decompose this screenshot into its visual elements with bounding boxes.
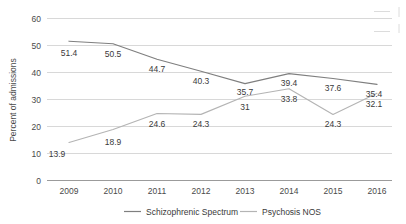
data-label-schizophrenic-2016: 35.4 [366, 89, 383, 99]
x-tick-2015: 2015 [324, 186, 343, 196]
x-tick-2012: 2012 [192, 186, 211, 196]
y-axis-title: Percent of admissions [8, 58, 18, 142]
data-label-psychosis-2013: 31 [240, 102, 250, 112]
line-chart: 60 50 40 30 20 10 0 Percent of admission… [0, 0, 406, 224]
chart-legend: Schizophrenic Spectrum Psychosis NOS [124, 207, 321, 217]
data-label-psychosis-2011: 24.6 [149, 119, 166, 129]
data-label-psychosis-2015: 24.3 [325, 119, 342, 129]
data-label-psychosis-2016: 32.1 [366, 99, 383, 109]
y-tick-30: 30 [32, 95, 42, 105]
y-tick-40: 40 [32, 68, 42, 78]
data-label-psychosis-2009: 13.9 [49, 149, 66, 159]
data-label-schizophrenic-2015: 37.6 [325, 83, 342, 93]
data-label-schizophrenic-2013: 35.7 [237, 87, 254, 97]
x-axis-ticks: 2009 2010 2011 2012 2013 2014 2015 2016 [60, 186, 387, 196]
y-tick-10: 10 [32, 149, 42, 159]
chart-canvas: 60 50 40 30 20 10 0 Percent of admission… [0, 0, 406, 224]
x-tick-2016: 2016 [368, 186, 387, 196]
y-axis-ticks: 60 50 40 30 20 10 0 [32, 14, 42, 186]
series-line-schizophrenic-spectrum [69, 41, 377, 84]
data-label-psychosis-2014: 33.8 [281, 94, 298, 104]
y-tick-60: 60 [32, 14, 42, 24]
x-tick-2013: 2013 [236, 186, 255, 196]
data-labels-schizophrenic-spectrum: 51.4 50.5 44.7 40.3 35.7 39.4 37.6 35.4 [61, 48, 383, 99]
data-label-schizophrenic-2012: 40.3 [193, 76, 210, 86]
legend-label-psychosis-nos[interactable]: Psychosis NOS [262, 207, 321, 217]
x-tick-2010: 2010 [104, 186, 123, 196]
x-tick-2009: 2009 [60, 186, 79, 196]
y-tick-50: 50 [32, 41, 42, 51]
data-label-psychosis-2010: 18.9 [105, 137, 122, 147]
data-label-schizophrenic-2010: 50.5 [105, 49, 122, 59]
series-line-psychosis-nos [69, 89, 377, 143]
x-tick-2011: 2011 [148, 186, 167, 196]
x-tick-2014: 2014 [280, 186, 299, 196]
data-label-schizophrenic-2014: 39.4 [281, 78, 298, 88]
data-label-schizophrenic-2009: 51.4 [61, 48, 78, 58]
legend-label-schizophrenic-spectrum[interactable]: Schizophrenic Spectrum [146, 207, 238, 217]
data-label-psychosis-2012: 24.3 [193, 119, 210, 129]
edge-artifacts [374, 7, 399, 33]
y-tick-0: 0 [36, 176, 41, 186]
data-label-schizophrenic-2011: 44.7 [149, 64, 166, 74]
y-tick-20: 20 [32, 122, 42, 132]
